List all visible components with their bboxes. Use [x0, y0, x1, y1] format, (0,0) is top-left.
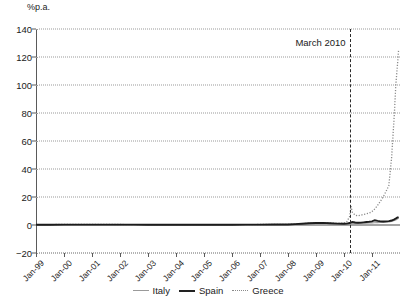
y-tick-label-0: 0: [27, 220, 36, 231]
x-tick-label-Jan-01: Jan-01: [77, 258, 102, 283]
x-tick-mark-Jan-08: [288, 253, 289, 257]
legend-item-spain: Spain: [179, 285, 223, 296]
x-tick-mark-Jan-02: [120, 253, 121, 257]
x-tick-mark-Jan-01: [92, 253, 93, 257]
series-line-greece: [36, 50, 399, 225]
y-tick-label-140: 140: [16, 24, 36, 35]
series-line-spain: [36, 217, 399, 225]
x-tick-mark-Jan-99: [36, 253, 37, 257]
legend-label-spain: Spain: [199, 285, 223, 296]
legend-label-italy: Italy: [153, 285, 170, 296]
legend-swatch-spain: [179, 290, 195, 292]
x-tick-mark-Jan-00: [64, 253, 65, 257]
x-tick-mark-Jan-03: [148, 253, 149, 257]
x-tick-label-Jan-00: Jan-00: [49, 258, 74, 283]
x-tick-mark-Jan-05: [204, 253, 205, 257]
x-tick-label-Jan-10: Jan-10: [329, 258, 354, 283]
x-tick-label-Jan-07: Jan-07: [245, 258, 270, 283]
x-tick-label-Jan-06: Jan-06: [217, 258, 242, 283]
y-tick-label--20: −20: [16, 248, 36, 259]
legend-label-greece: Greece: [252, 285, 283, 296]
march-2010-annotation-label: March 2010: [260, 37, 346, 48]
y-tick-label-80: 80: [21, 108, 36, 119]
plot-area: 140120100806040200−20 Jan-99Jan-00Jan-01…: [36, 29, 400, 253]
x-tick-label-Jan-04: Jan-04: [161, 258, 186, 283]
x-tick-mark-Jan-06: [232, 253, 233, 257]
march-2010-marker-line: [350, 29, 351, 253]
x-tick-label-Jan-03: Jan-03: [133, 258, 158, 283]
series-lines: [36, 29, 400, 253]
x-tick-label-Jan-09: Jan-09: [301, 258, 326, 283]
x-tick-label-Jan-05: Jan-05: [189, 258, 214, 283]
y-tick-label-120: 120: [16, 52, 36, 63]
x-tick-mark-Jan-10: [344, 253, 345, 257]
y-tick-label-60: 60: [21, 136, 36, 147]
x-tick-mark-Jan-07: [260, 253, 261, 257]
x-tick-mark-Jan-11: [372, 253, 373, 257]
legend-swatch-italy: [133, 290, 149, 291]
x-tick-label-Jan-08: Jan-08: [273, 258, 298, 283]
legend-item-greece: Greece: [232, 285, 283, 296]
x-tick-mark-Jan-04: [176, 253, 177, 257]
x-tick-label-Jan-11: Jan-11: [357, 258, 382, 283]
x-tick-mark-Jan-09: [316, 253, 317, 257]
y-tick-label-40: 40: [21, 164, 36, 175]
chart-container: %p.a. 140120100806040200−20 Jan-99Jan-00…: [0, 0, 416, 298]
y-tick-label-100: 100: [16, 80, 36, 91]
legend-item-italy: Italy: [133, 285, 170, 296]
x-tick-label-Jan-02: Jan-02: [105, 258, 130, 283]
x-tick-label-Jan-99: Jan-99: [21, 258, 46, 283]
chart-legend: Italy Spain Greece: [0, 285, 416, 296]
legend-swatch-greece: [232, 290, 248, 291]
y-axis-unit-label: %p.a.: [27, 2, 50, 12]
y-tick-label-20: 20: [21, 192, 36, 203]
